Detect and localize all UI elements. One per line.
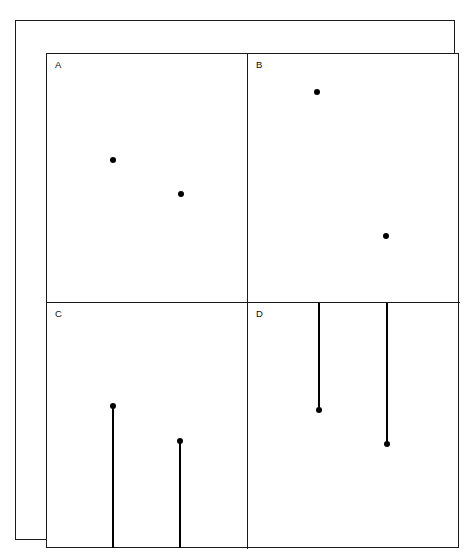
- stem-d2-line: [386, 303, 388, 444]
- stem-c2-line: [179, 441, 181, 548]
- panel-a-plot-area: [47, 54, 247, 302]
- panel-a: A: [47, 54, 248, 303]
- dot-b2: [383, 233, 389, 239]
- stem-d1-head: [316, 407, 322, 413]
- stem-c1-line: [112, 406, 114, 548]
- outer-frame: A B C: [15, 20, 455, 540]
- stem-d2-head: [384, 441, 390, 447]
- panel-d-plot-area: [248, 303, 460, 549]
- stem-d1-line: [318, 303, 320, 410]
- panel-c: C: [47, 303, 248, 549]
- panel-grid: A B C: [46, 53, 459, 548]
- stem-c2-head: [177, 438, 183, 444]
- dot-a1: [110, 157, 116, 163]
- panel-b: B: [248, 54, 460, 303]
- panel-c-plot-area: [47, 303, 247, 549]
- panel-b-plot-area: [248, 54, 460, 302]
- stem-c1-head: [110, 403, 116, 409]
- panel-d: D: [248, 303, 460, 549]
- dot-b1: [314, 89, 320, 95]
- dot-a2: [178, 191, 184, 197]
- figure-root: A B C: [0, 0, 470, 553]
